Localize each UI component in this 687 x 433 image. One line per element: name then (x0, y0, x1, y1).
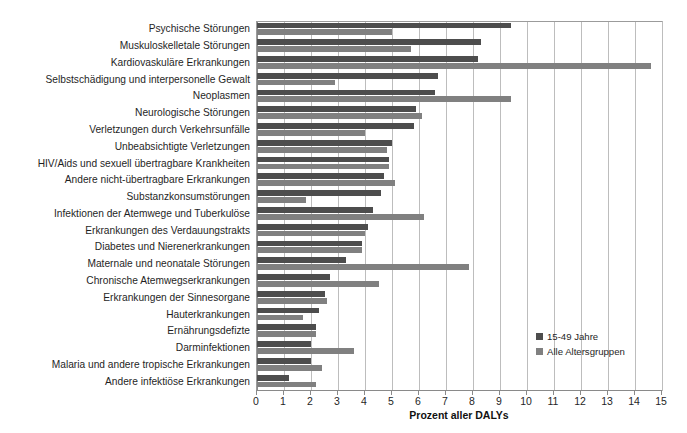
category-label: Kardiovaskuläre Erkrankungen (111, 57, 250, 69)
bar-series-15-49-jahre (257, 73, 438, 79)
chart-row: Neoplasmen (0, 88, 687, 105)
bar-group (257, 122, 687, 139)
x-tick-label: 7 (442, 395, 448, 408)
bar-series-alle-altersgruppen (257, 348, 354, 354)
chart-row: Unbeabsichtigte Verletzungen (0, 138, 687, 155)
bar-group (257, 306, 687, 323)
chart-row: Kardiovaskuläre Erkrankungen (0, 55, 687, 72)
chart-row: Selbstschädigung und interpersonelle Gew… (0, 71, 687, 88)
category-label: Neoplasmen (193, 90, 250, 102)
bar-group (257, 21, 687, 38)
bar-series-15-49-jahre (257, 23, 511, 29)
bar-series-alle-altersgruppen (257, 147, 387, 153)
bar-series-alle-altersgruppen (257, 96, 511, 102)
bar-series-alle-altersgruppen (257, 63, 651, 69)
chart-legend: 15-49 JahreAlle Altersgruppen (536, 329, 625, 359)
category-label: Erkrankungen des Verdauungstrakts (85, 225, 250, 237)
bar-series-alle-altersgruppen (257, 247, 362, 253)
bar-series-15-49-jahre (257, 224, 368, 230)
bar-series-alle-altersgruppen (257, 29, 392, 35)
category-label: Maternale und neonatale Störungen (87, 258, 250, 270)
chart-row: Verletzungen durch Verkehrsunfälle (0, 122, 687, 139)
chart-row: Substanzkonsumstörungen (0, 189, 687, 206)
category-label: Andere infektiöse Erkrankungen (105, 376, 250, 388)
x-tick-label: 5 (388, 395, 394, 408)
x-axis-title: Prozent aller DALYs (256, 409, 662, 421)
chart-row: Erkrankungen des Verdauungstrakts (0, 222, 687, 239)
category-label: Unbeabsichtigte Verletzungen (115, 141, 250, 153)
category-label: Neurologische Störungen (135, 107, 250, 119)
bar-series-alle-altersgruppen (257, 365, 322, 371)
bar-series-15-49-jahre (257, 324, 316, 330)
bar-series-alle-altersgruppen (257, 315, 303, 321)
bar-group (257, 55, 687, 72)
x-tick-label: 14 (628, 395, 640, 408)
bar-group (257, 256, 687, 273)
chart-row: Muskuloskelletale Störungen (0, 38, 687, 55)
bar-group (257, 222, 687, 239)
category-label: Erkrankungen der Sinnesorgane (103, 292, 250, 304)
bar-group (257, 373, 687, 390)
bar-series-alle-altersgruppen (257, 231, 365, 237)
bar-series-alle-altersgruppen (257, 164, 389, 170)
x-tick-label: 9 (496, 395, 502, 408)
bar-series-alle-altersgruppen (257, 46, 411, 52)
bar-series-15-49-jahre (257, 157, 389, 163)
category-label: Ernährungsdefizte (167, 325, 250, 337)
legend-label: 15-49 Jahre (547, 329, 598, 344)
category-label: Verletzungen durch Verkehrsunfälle (89, 124, 250, 136)
legend-swatch-icon (536, 333, 543, 340)
x-tick-label: 3 (334, 395, 340, 408)
chart-row: Andere infektiöse Erkrankungen (0, 373, 687, 390)
bar-group (257, 71, 687, 88)
category-label: Psychische Störungen (149, 23, 250, 35)
category-label: Darminfektionen (176, 342, 250, 354)
bar-group (257, 138, 687, 155)
x-axis-tick-labels: 0123456789101112131415 (256, 395, 662, 409)
bar-series-15-49-jahre (257, 90, 435, 96)
legend-item[interactable]: 15-49 Jahre (536, 329, 625, 344)
chart-row: Erkrankungen der Sinnesorgane (0, 289, 687, 306)
legend-label: Alle Altersgruppen (547, 344, 625, 359)
bar-series-alle-altersgruppen (257, 214, 424, 220)
x-tick-label: 0 (253, 395, 259, 408)
chart-row: Chronische Atemwegserkrankungen (0, 273, 687, 290)
category-label: HIV/Aids und sexuell übertragbare Krankh… (38, 158, 250, 170)
bar-series-alle-altersgruppen (257, 298, 327, 304)
x-tick-label: 12 (574, 395, 586, 408)
bar-series-15-49-jahre (257, 341, 311, 347)
chart-row: Andere nicht-übertragbare Erkrankungen (0, 172, 687, 189)
bar-series-15-49-jahre (257, 173, 384, 179)
chart-row: Maternale und neonatale Störungen (0, 256, 687, 273)
chart-row: Infektionen der Atemwege und Tuberkulöse (0, 206, 687, 223)
bar-group (257, 105, 687, 122)
chart-row: Psychische Störungen (0, 21, 687, 38)
bar-group (257, 172, 687, 189)
bar-series-alle-altersgruppen (257, 264, 469, 270)
x-tick-label: 13 (601, 395, 613, 408)
category-label: Chronische Atemwegserkrankungen (86, 275, 250, 287)
chart-row: Diabetes und Nierenerkrankungen (0, 239, 687, 256)
bar-group (257, 38, 687, 55)
x-tick-label: 4 (361, 395, 367, 408)
bar-chart: Psychische StörungenMuskuloskelletale St… (0, 0, 687, 433)
category-label: Selbstschädigung und interpersonelle Gew… (46, 74, 250, 86)
bar-group (257, 189, 687, 206)
x-tick-label: 1 (280, 395, 286, 408)
category-label: Malaria und andere tropische Erkrankunge… (52, 359, 250, 371)
bar-series-15-49-jahre (257, 106, 416, 112)
bar-series-15-49-jahre (257, 291, 325, 297)
bar-series-15-49-jahre (257, 308, 319, 314)
x-tick-label: 10 (520, 395, 532, 408)
chart-row: Hauterkrankungen (0, 306, 687, 323)
bar-series-15-49-jahre (257, 241, 362, 247)
bar-series-15-49-jahre (257, 123, 414, 129)
bar-group (257, 273, 687, 290)
bar-series-alle-altersgruppen (257, 382, 316, 388)
bar-series-15-49-jahre (257, 207, 373, 213)
category-label: Muskuloskelletale Störungen (120, 40, 250, 52)
bar-series-alle-altersgruppen (257, 281, 379, 287)
legend-item[interactable]: Alle Altersgruppen (536, 344, 625, 359)
bar-group (257, 239, 687, 256)
x-tick-label: 6 (415, 395, 421, 408)
